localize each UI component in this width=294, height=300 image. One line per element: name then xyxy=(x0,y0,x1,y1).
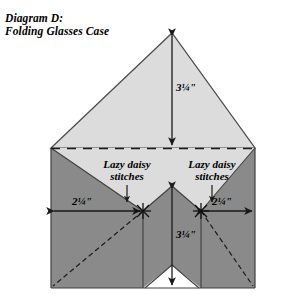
stitch-label-left-line2: stitches xyxy=(94,171,160,183)
dimension-label-top-height: 3¼" xyxy=(176,82,196,93)
dimension-label-bottom-height: 3¼" xyxy=(176,229,196,240)
diagram-canvas: Diagram D: Folding Glasses Case xyxy=(0,0,294,300)
upper-flap-triangle xyxy=(51,33,255,148)
dimension-label-left-width: 2¼" xyxy=(72,196,92,207)
stitch-label-left-line1: Lazy daisy xyxy=(94,159,160,171)
stitch-label-right-line1: Lazy daisy xyxy=(179,159,245,171)
dimension-label-right-width: 2¼" xyxy=(212,196,232,207)
stitch-label-right: Lazy daisy stitches xyxy=(179,159,245,182)
lazy-daisy-stitch-mark-icon-right xyxy=(193,203,209,219)
folding-glasses-case-illustration xyxy=(0,0,294,300)
stitch-label-right-line2: stitches xyxy=(179,171,245,183)
stitch-label-left: Lazy daisy stitches xyxy=(94,159,160,182)
lazy-daisy-stitch-mark-icon-left xyxy=(135,203,151,219)
